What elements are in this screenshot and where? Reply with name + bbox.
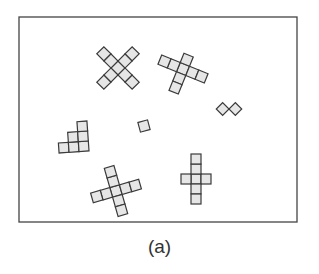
figure-frame [19, 17, 297, 222]
diagonal-x-pentomino-cross-shape [83, 33, 154, 104]
polyomino-cell [181, 174, 191, 184]
polyomino-cell [91, 190, 103, 202]
polyomino-cell [191, 194, 201, 204]
polyomino-cell [201, 174, 211, 184]
tilted-cross-bottom-left-shape [85, 160, 147, 222]
polyomino-cell [58, 142, 69, 153]
polyomino-cell [78, 131, 89, 142]
polyomino-cell [78, 141, 89, 152]
polyomino-cell [68, 142, 79, 153]
polyomino-cell [104, 166, 116, 178]
polyomino-cell [216, 103, 229, 116]
polyomino-cell [115, 204, 127, 216]
polyomino-cell [191, 154, 201, 164]
tilted-cross-top-right-shape [150, 46, 211, 102]
polyomino-cell [229, 103, 242, 116]
polyomino-cell [191, 174, 201, 184]
polyomino-cell [191, 164, 201, 174]
polyomino-figure [0, 0, 319, 274]
single-square-shape [138, 120, 150, 132]
polyomino-cell [129, 179, 141, 191]
polyomino-cell [138, 120, 150, 132]
domino-diamonds-shape [216, 96, 241, 121]
polyomino-cell [77, 121, 88, 132]
figure-caption: (a) [0, 236, 319, 258]
upright-cross-bottom-right-shape [181, 154, 211, 204]
polyomino-cell [191, 184, 201, 194]
shapes-group [57, 33, 242, 222]
polyomino-cell [68, 132, 79, 143]
staircase-shape [57, 121, 89, 153]
